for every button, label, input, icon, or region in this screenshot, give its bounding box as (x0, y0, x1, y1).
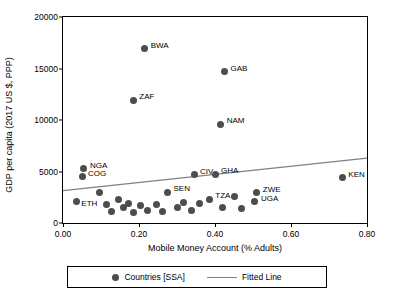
data-point-label: ZWE (263, 186, 281, 194)
data-point-label: UGA (261, 195, 278, 203)
data-point (339, 174, 346, 181)
data-point-label: GAB (231, 65, 248, 73)
data-point-label: BWA (151, 42, 169, 50)
circle-marker-icon (112, 274, 119, 281)
data-point (191, 171, 198, 178)
data-point (206, 196, 213, 203)
data-point (96, 189, 103, 196)
data-point (130, 97, 137, 104)
y-tick-mark (59, 68, 63, 69)
data-point-label: COG (88, 170, 106, 178)
plot-area: BWAGABZAFNAMKENNGACOGCIVGHAZWEUGASENTZAE… (62, 16, 368, 224)
data-point-label: SEN (174, 185, 190, 193)
legend-label: Countries [SSA] (124, 272, 184, 282)
legend-label: Fitted Line (242, 272, 282, 282)
data-point (115, 196, 122, 203)
line-marker-icon (207, 277, 237, 278)
data-point (130, 209, 137, 216)
x-tick-mark (367, 223, 368, 227)
data-point-label: ZAF (139, 93, 154, 101)
data-point-label: ETH (81, 200, 97, 208)
data-point (144, 207, 151, 214)
data-point (164, 189, 171, 196)
x-tick-mark (215, 223, 216, 227)
data-point (212, 171, 219, 178)
chart-legend: Countries [SSA] Fitted Line (67, 266, 327, 288)
data-point (174, 204, 181, 211)
data-point-label: KEN (348, 171, 364, 179)
y-axis-title-text: GDP per capita (2017 US $, PPP) (4, 25, 14, 225)
y-tick-mark (59, 171, 63, 172)
data-point-label: GHA (221, 167, 238, 175)
y-tick-mark (59, 120, 63, 121)
x-tick-mark (63, 223, 64, 227)
data-point (125, 200, 132, 207)
data-point (79, 173, 86, 180)
data-point (238, 205, 245, 212)
data-point (73, 198, 80, 205)
data-point (188, 207, 195, 214)
data-point-label: NAM (227, 117, 245, 125)
scatter-chart: GDP per capita (2017 US $, PPP) BWAGABZA… (0, 0, 395, 304)
data-point-label: TZA (215, 192, 230, 200)
legend-item-fitted-line: Fitted Line (207, 272, 282, 282)
legend-item-countries: Countries [SSA] (112, 272, 184, 282)
y-tick-mark (59, 17, 63, 18)
x-tick-mark (291, 223, 292, 227)
x-tick-mark (139, 223, 140, 227)
y-axis-title: GDP per capita (2017 US $, PPP) (2, 120, 16, 130)
x-axis-title: Mobile Money Account (% Adults) (62, 243, 368, 253)
data-point (217, 121, 224, 128)
data-point (231, 193, 238, 200)
